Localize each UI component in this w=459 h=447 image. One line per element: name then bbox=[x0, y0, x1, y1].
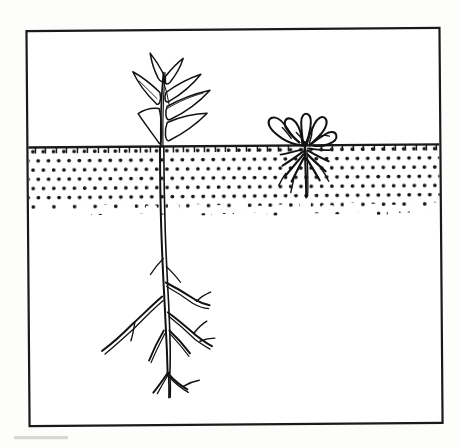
figure-root: Black ink botanical illustration inside … bbox=[0, 0, 459, 447]
short-taproot bbox=[305, 149, 306, 197]
topsoil-layer bbox=[28, 145, 440, 228]
plant-root-comparison-illustration bbox=[0, 0, 459, 447]
scan-smudge-bottom-left bbox=[14, 436, 68, 439]
